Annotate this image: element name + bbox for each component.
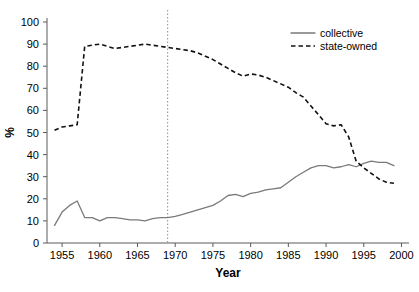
x-tick-label: 1975 [201,249,225,261]
x-tick-label: 1970 [163,249,187,261]
y-tick-label: 30 [27,171,39,183]
x-tick-label: 1985 [276,249,300,261]
y-tick-label: 90 [27,38,39,50]
y-tick-label: 50 [27,127,39,139]
x-axis-title: Year [215,266,241,280]
legend-label-collective: collective [320,27,363,39]
y-tick-label: 40 [27,149,39,161]
chart-container: 0102030405060708090100 19551960196519701… [0,0,419,292]
x-tick-label: 1955 [50,249,74,261]
series-line-state-owned [55,44,394,183]
x-axis-ticks: 1955196019651970197519801985199019952000 [50,243,414,261]
series-line-collective [55,161,394,225]
data-series-group [55,44,394,225]
x-tick-label: 2000 [389,249,413,261]
y-tick-label: 10 [27,215,39,227]
line-chart: 0102030405060708090100 19551960196519701… [0,0,419,292]
x-tick-label: 1980 [238,249,262,261]
legend: collectivestate-owned [291,27,377,52]
y-tick-label: 80 [27,60,39,72]
y-tick-label: 70 [27,82,39,94]
x-tick-label: 1965 [125,249,149,261]
y-tick-label: 60 [27,104,39,116]
x-tick-label: 1960 [88,249,112,261]
legend-label-state-owned: state-owned [320,40,377,52]
y-tick-label: 100 [21,16,39,28]
y-tick-label: 0 [33,237,39,249]
y-axis-ticks: 0102030405060708090100 [21,16,47,249]
y-tick-label: 20 [27,193,39,205]
x-tick-label: 1995 [352,249,376,261]
x-tick-label: 1990 [314,249,338,261]
y-axis-title: % [3,127,17,138]
